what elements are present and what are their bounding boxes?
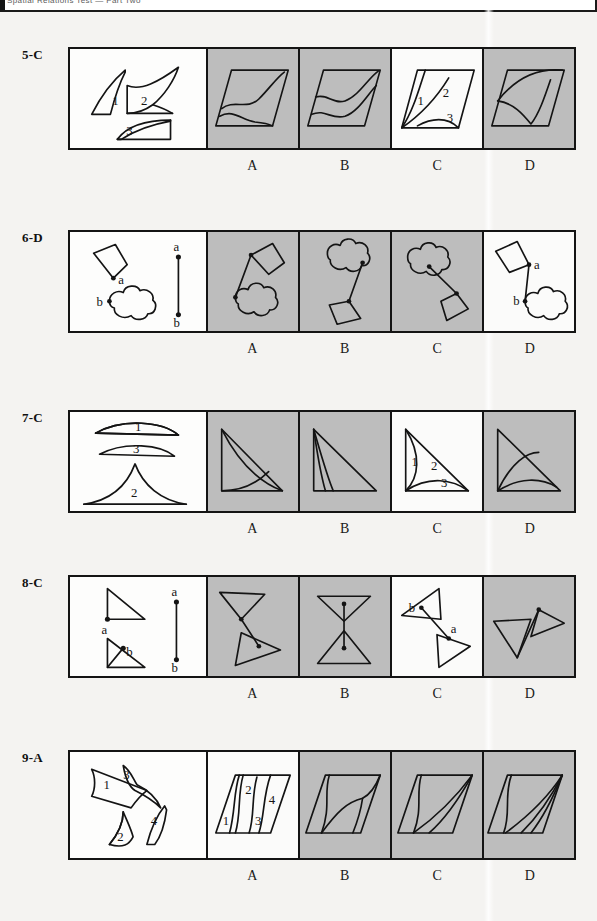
option-letter-8-B: B	[299, 686, 392, 702]
option-panel-9-B[interactable]	[300, 752, 392, 858]
option-letter-9-B: B	[299, 868, 392, 884]
svg-text:3: 3	[447, 111, 453, 125]
option-letter-9-A: A	[206, 868, 299, 884]
option-panel-5-D[interactable]	[484, 49, 574, 148]
option-letter-5-D: D	[484, 158, 577, 174]
svg-text:1: 1	[135, 420, 141, 434]
svg-text:b: b	[97, 295, 103, 309]
question-label-8: 8-C	[22, 575, 43, 591]
option-panel-6-B[interactable]	[300, 232, 392, 331]
svg-text:3: 3	[123, 768, 129, 782]
svg-text:3: 3	[133, 442, 139, 456]
svg-text:2: 2	[431, 459, 437, 473]
option-panel-8-C[interactable]: b a	[392, 577, 484, 676]
svg-text:b: b	[126, 645, 132, 659]
option-panel-7-C[interactable]: 1 2 3	[392, 412, 484, 511]
svg-text:1: 1	[112, 94, 118, 108]
stem-panel-5: 1 2 3	[70, 49, 208, 148]
answer-grid-6: a b a b	[68, 230, 576, 333]
svg-text:b: b	[409, 601, 415, 615]
option-letters-9: A B C D	[68, 868, 576, 884]
option-panel-8-A[interactable]	[208, 577, 300, 676]
svg-text:a: a	[172, 585, 178, 599]
header-title: Spatial Relations Test — Part Two	[7, 0, 141, 5]
option-panel-7-D[interactable]	[484, 412, 574, 511]
option-panel-9-D[interactable]	[484, 752, 574, 858]
question-label-7: 7-C	[22, 410, 43, 426]
option-panel-7-B[interactable]	[300, 412, 392, 511]
option-letter-7-C: C	[391, 521, 484, 537]
option-panel-9-A[interactable]: 1 2 3 4	[208, 752, 300, 858]
option-letter-6-A: A	[206, 341, 299, 357]
header-corner-mark	[0, 0, 5, 10]
svg-text:b: b	[173, 316, 179, 330]
page-header-bar: Spatial Relations Test — Part Two	[0, 0, 597, 12]
stem-panel-6: a b a b	[70, 232, 208, 331]
svg-text:4: 4	[269, 793, 276, 807]
option-panel-6-A[interactable]	[208, 232, 300, 331]
svg-text:a: a	[102, 623, 108, 637]
question-label-5: 5-C	[22, 47, 43, 63]
stem-panel-7: 1 3 2	[70, 412, 208, 511]
option-letters-5: A B C D	[68, 158, 576, 174]
svg-text:1: 1	[104, 778, 110, 792]
answer-grid-9: 1 3 2 4 1 2 3 4	[68, 750, 576, 860]
stem-panel-8: a b a b	[70, 577, 208, 676]
option-letter-8-C: C	[391, 686, 484, 702]
question-label-6: 6-D	[22, 230, 43, 246]
option-letters-7: A B C D	[68, 521, 576, 537]
option-letter-5-C: C	[391, 158, 484, 174]
option-panel-9-C[interactable]	[392, 752, 484, 858]
svg-text:2: 2	[245, 783, 251, 797]
svg-text:b: b	[513, 294, 519, 308]
svg-text:1: 1	[223, 814, 229, 828]
svg-text:b: b	[172, 661, 178, 675]
stem-panel-9: 1 3 2 4	[70, 752, 208, 858]
option-panel-7-A[interactable]	[208, 412, 300, 511]
option-letter-8-D: D	[484, 686, 577, 702]
svg-text:4: 4	[151, 814, 158, 828]
svg-text:1: 1	[412, 455, 418, 469]
option-letters-6: A B C D	[68, 341, 576, 357]
option-letters-8: A B C D	[68, 686, 576, 702]
option-letter-8-A: A	[206, 686, 299, 702]
svg-text:3: 3	[126, 125, 132, 139]
option-letter-9-C: C	[391, 868, 484, 884]
svg-text:2: 2	[443, 86, 449, 100]
option-letter-7-A: A	[206, 521, 299, 537]
svg-text:2: 2	[131, 486, 137, 500]
option-panel-8-B[interactable]	[300, 577, 392, 676]
answer-grid-5: 1 2 3 1	[68, 47, 576, 150]
option-panel-5-A[interactable]	[208, 49, 300, 148]
option-panel-5-C[interactable]: 1 2 3	[392, 49, 484, 148]
svg-text:3: 3	[255, 814, 261, 828]
svg-text:1: 1	[417, 94, 423, 108]
option-panel-8-D[interactable]	[484, 577, 574, 676]
svg-text:3: 3	[441, 476, 447, 490]
svg-text:2: 2	[117, 830, 123, 844]
svg-text:2: 2	[141, 94, 147, 108]
option-letter-6-D: D	[484, 341, 577, 357]
option-panel-5-B[interactable]	[300, 49, 392, 148]
option-letter-7-B: B	[299, 521, 392, 537]
option-letter-6-C: C	[391, 341, 484, 357]
option-letter-6-B: B	[299, 341, 392, 357]
answer-grid-8: a b a b	[68, 575, 576, 678]
svg-text:a: a	[534, 258, 540, 272]
option-letter-5-A: A	[206, 158, 299, 174]
option-letter-7-D: D	[484, 521, 577, 537]
option-letter-9-D: D	[484, 868, 577, 884]
svg-text:a: a	[173, 240, 179, 254]
option-panel-6-D[interactable]: a b	[484, 232, 574, 331]
answer-grid-7: 1 3 2	[68, 410, 576, 513]
question-label-9: 9-A	[22, 750, 43, 766]
svg-text:a: a	[451, 622, 457, 636]
option-letter-5-B: B	[299, 158, 392, 174]
svg-text:a: a	[118, 273, 124, 287]
option-panel-6-C[interactable]	[392, 232, 484, 331]
